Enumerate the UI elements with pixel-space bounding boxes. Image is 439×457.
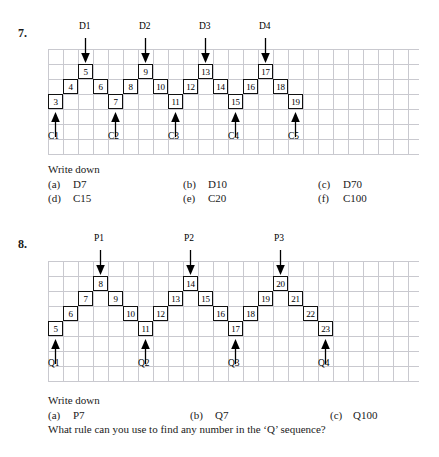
sequence-cell: 19 xyxy=(288,94,303,109)
bottom-marker-label: C2 xyxy=(108,131,119,141)
sequence-cell: 16 xyxy=(243,79,258,94)
top-marker-label: D1 xyxy=(79,21,91,31)
sequence-cell: 16 xyxy=(213,306,228,321)
option-8-b-tag: (b) xyxy=(190,409,203,421)
option-7-d-value: C15 xyxy=(73,192,91,204)
sequence-cell: 18 xyxy=(273,79,288,94)
bottom-marker-label: Q1 xyxy=(48,358,60,368)
sequence-cell: 12 xyxy=(183,79,198,94)
sequence-cell: 7 xyxy=(78,291,93,306)
bottom-marker-label: C5 xyxy=(288,131,299,141)
sequence-cell: 11 xyxy=(138,321,153,336)
sequence-cell: 13 xyxy=(168,291,183,306)
sequence-cell: 22 xyxy=(303,306,318,321)
arrow-down-icon xyxy=(201,38,212,64)
sequence-cell: 17 xyxy=(228,321,243,336)
option-7-f-value: C100 xyxy=(343,192,367,204)
bottom-marker-label: C4 xyxy=(228,131,239,141)
top-marker-label: P2 xyxy=(184,233,194,243)
bottom-marker-label: C3 xyxy=(168,131,179,141)
bottom-marker-label: Q3 xyxy=(228,358,240,368)
option-8-c-tag: (c) xyxy=(330,409,342,421)
sequence-cell: 3 xyxy=(48,94,63,109)
sequence-cell: 15 xyxy=(228,94,243,109)
option-7-d-tag: (d) xyxy=(48,192,61,204)
sequence-cell: 11 xyxy=(168,94,183,109)
sequence-cell: 6 xyxy=(93,79,108,94)
sequence-cell: 14 xyxy=(213,79,228,94)
top-marker-label: D2 xyxy=(139,21,151,31)
top-marker-label: D3 xyxy=(199,21,211,31)
instruction-7: Write down xyxy=(48,163,100,175)
option-7-c-value: D70 xyxy=(343,178,362,190)
option-8-a-tag: (a) xyxy=(48,409,60,421)
option-7-a-value: D7 xyxy=(73,178,86,190)
sequence-cell: 8 xyxy=(123,79,138,94)
arrow-down-icon xyxy=(261,38,272,64)
arrow-down-icon xyxy=(141,38,152,64)
sequence-cell: 9 xyxy=(138,64,153,79)
arrow-down-icon xyxy=(186,250,197,276)
sequence-cell: 19 xyxy=(258,291,273,306)
sequence-cell: 10 xyxy=(153,79,168,94)
sequence-cell: 14 xyxy=(183,276,198,291)
diagram-7: 345678910111213141516171819 D1D2D3D4 C1C… xyxy=(48,49,419,155)
sequence-cell: 5 xyxy=(48,321,63,336)
sequence-cell: 7 xyxy=(108,94,123,109)
closing-question-8: What rule can you use to find any number… xyxy=(48,423,326,435)
sequence-cell: 8 xyxy=(93,276,108,291)
option-7-b-tag: (b) xyxy=(183,178,196,190)
arrow-down-icon xyxy=(276,250,287,276)
bottom-marker-label: C1 xyxy=(48,131,59,141)
sequence-cell: 20 xyxy=(273,276,288,291)
instruction-8: Write down xyxy=(48,394,100,406)
option-7-b-value: D10 xyxy=(208,178,227,190)
sequence-cell: 12 xyxy=(153,306,168,321)
sequence-cell: 13 xyxy=(198,64,213,79)
option-8-a-value: P7 xyxy=(73,409,85,421)
sequence-cell: 9 xyxy=(108,291,123,306)
problem-number-7: 7. xyxy=(18,26,27,41)
sequence-cell: 4 xyxy=(63,79,78,94)
option-7-c-tag: (c) xyxy=(318,178,330,190)
option-7-e-tag: (e) xyxy=(183,192,195,204)
arrow-down-icon xyxy=(81,38,92,64)
sequence-cell: 17 xyxy=(258,64,273,79)
option-8-c-value: Q100 xyxy=(353,409,377,421)
top-marker-label: D4 xyxy=(259,21,271,31)
option-8-b-value: Q7 xyxy=(215,409,228,421)
top-marker-label: P1 xyxy=(94,233,104,243)
sequence-cell: 23 xyxy=(318,321,333,336)
sequence-cell: 15 xyxy=(198,291,213,306)
option-7-a-tag: (a) xyxy=(48,178,60,190)
diagram-8: 567891011121314151617181920212223 P1P2P3… xyxy=(48,261,419,382)
option-7-f-tag: (f) xyxy=(318,192,329,204)
option-7-e-value: C20 xyxy=(208,192,226,204)
arrow-down-icon xyxy=(96,250,107,276)
problem-number-8: 8. xyxy=(18,237,27,252)
top-marker-label: P3 xyxy=(274,233,284,243)
bottom-marker-label: Q2 xyxy=(138,358,150,368)
sequence-cell: 5 xyxy=(78,64,93,79)
sequence-cell: 6 xyxy=(63,306,78,321)
sequence-cell: 10 xyxy=(123,306,138,321)
bottom-marker-label: Q4 xyxy=(318,358,330,368)
sequence-cell: 21 xyxy=(288,291,303,306)
sequence-cell: 18 xyxy=(243,306,258,321)
